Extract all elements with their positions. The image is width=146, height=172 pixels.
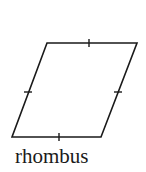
- rhombus-shape: [12, 43, 137, 137]
- shape-label: rhombus: [15, 146, 89, 167]
